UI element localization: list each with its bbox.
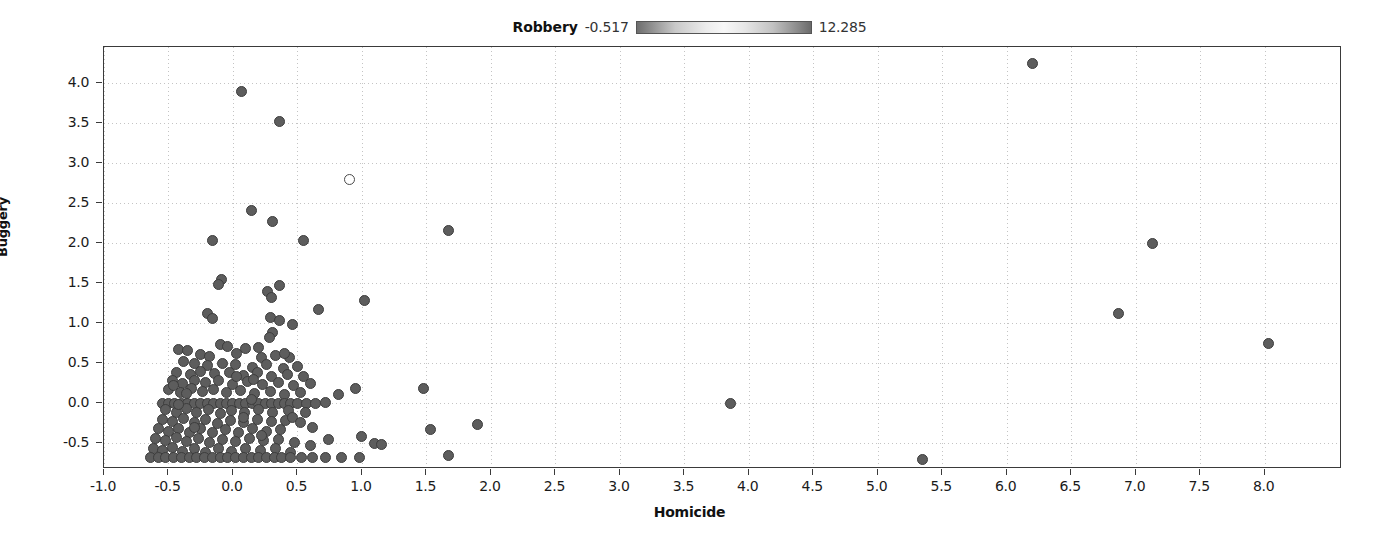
x-tick-label: 3.0 — [589, 478, 649, 494]
scatter-point — [333, 389, 344, 400]
x-tick-label: 1.0 — [331, 478, 391, 494]
scatter-point — [1147, 238, 1158, 249]
scatter-point — [181, 388, 192, 399]
scatter-point — [274, 315, 285, 326]
y-tick-mark — [96, 282, 102, 283]
y-tick-label: 4.0 — [35, 74, 89, 90]
x-tick-mark — [1264, 469, 1265, 475]
x-tick-label: -0.5 — [137, 478, 197, 494]
scatter-point — [344, 174, 355, 185]
scatter-point — [253, 342, 264, 353]
scatter-point — [248, 374, 259, 385]
scatter-point — [418, 383, 429, 394]
scatter-point — [189, 422, 200, 433]
y-axis-title: Buggery — [0, 197, 10, 257]
scatter-point — [266, 292, 277, 303]
gridline-horizontal — [104, 163, 1340, 164]
scatter-point — [264, 332, 275, 343]
x-tick-mark — [619, 469, 620, 475]
scatter-point — [287, 319, 298, 330]
x-tick-mark — [683, 469, 684, 475]
scatter-point — [443, 225, 454, 236]
scatter-point — [282, 369, 293, 380]
x-tick-label: 1.5 — [395, 478, 455, 494]
x-tick-label: -1.0 — [73, 478, 133, 494]
scatter-point — [356, 431, 367, 442]
scatter-point — [1027, 58, 1038, 69]
y-tick-mark — [96, 122, 102, 123]
scatter-point — [725, 398, 736, 409]
x-axis-title: Homicide — [0, 504, 1379, 520]
x-tick-label: 0.0 — [202, 478, 262, 494]
scatter-point — [274, 280, 285, 291]
y-tick-mark — [96, 322, 102, 323]
scatter-point — [917, 454, 928, 465]
scatter-point — [320, 397, 331, 408]
x-tick-label: 4.0 — [718, 478, 778, 494]
scatter-point — [295, 417, 306, 428]
gridline-horizontal — [104, 203, 1340, 204]
scatter-point — [285, 452, 296, 463]
x-tick-label: 2.0 — [460, 478, 520, 494]
scatter-point — [307, 452, 318, 463]
x-tick-mark — [425, 469, 426, 475]
scatter-point — [231, 371, 242, 382]
y-tick-label: 3.5 — [35, 114, 89, 130]
scatter-point — [305, 440, 316, 451]
y-tick-label: 2.5 — [35, 194, 89, 210]
x-tick-mark — [1199, 469, 1200, 475]
y-tick-label: 0.5 — [35, 354, 89, 370]
x-tick-label: 6.0 — [976, 478, 1036, 494]
x-tick-label: 0.5 — [266, 478, 326, 494]
x-tick-mark — [1135, 469, 1136, 475]
robbery-colorbar — [636, 21, 812, 34]
scatter-point — [305, 378, 316, 389]
scatter-point — [354, 452, 365, 463]
scatter-point — [208, 384, 219, 395]
scatter-point — [267, 216, 278, 227]
x-tick-mark — [296, 469, 297, 475]
y-tick-label: 1.5 — [35, 274, 89, 290]
scatter-point — [221, 387, 232, 398]
scatter-point — [178, 356, 189, 367]
scatter-point — [307, 422, 318, 433]
scatter-point — [261, 359, 272, 370]
scatter-point — [336, 452, 347, 463]
scatter-point — [425, 424, 436, 435]
x-tick-mark — [1070, 469, 1071, 475]
y-tick-mark — [96, 442, 102, 443]
scatter-point — [295, 387, 306, 398]
gridline-horizontal — [104, 363, 1340, 364]
scatter-point — [350, 383, 361, 394]
scatter-point — [231, 348, 242, 359]
x-tick-label: 7.0 — [1105, 478, 1165, 494]
x-tick-mark — [941, 469, 942, 475]
x-tick-label: 4.5 — [782, 478, 842, 494]
y-tick-mark — [96, 242, 102, 243]
x-tick-mark — [1006, 469, 1007, 475]
y-tick-label: 0.0 — [35, 394, 89, 410]
x-tick-label: 6.5 — [1040, 478, 1100, 494]
y-tick-mark — [96, 82, 102, 83]
x-tick-label: 2.5 — [524, 478, 584, 494]
x-tick-mark — [361, 469, 362, 475]
y-tick-mark — [96, 402, 102, 403]
scatter-point — [298, 235, 309, 246]
y-tick-label: -0.5 — [35, 434, 89, 450]
scatter-point — [376, 439, 387, 450]
scatter-point — [256, 430, 267, 441]
scatter-point — [236, 86, 247, 97]
x-tick-mark — [812, 469, 813, 475]
scatter-point — [292, 361, 303, 372]
y-tick-label: 3.0 — [35, 154, 89, 170]
x-tick-mark — [167, 469, 168, 475]
x-tick-mark — [232, 469, 233, 475]
scatter-point — [273, 377, 284, 388]
legend-min-value: -0.517 — [585, 19, 629, 35]
y-tick-label: 2.0 — [35, 234, 89, 250]
x-tick-label: 3.5 — [653, 478, 713, 494]
legend-max-value: 12.285 — [819, 19, 867, 35]
scatter-point — [274, 116, 285, 127]
scatter-point — [359, 295, 370, 306]
scatter-point — [213, 279, 224, 290]
